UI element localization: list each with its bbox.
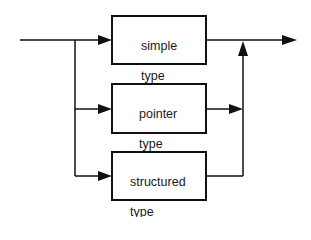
structured-type-label: structured type xyxy=(130,160,186,217)
structured-type-line2: type xyxy=(130,205,186,217)
simple-type-line1: simple xyxy=(141,39,177,54)
simple-type-label: simple type xyxy=(141,24,177,99)
structured-type-line1: structured xyxy=(130,175,186,190)
arrow-to-structured-type xyxy=(75,171,112,181)
pointer-type-line2: type xyxy=(139,137,177,152)
output-arrow xyxy=(282,35,297,45)
pointer-type-line1: pointer xyxy=(139,107,177,122)
arrow-to-simple-type xyxy=(75,35,112,45)
merge-arrow-up xyxy=(238,41,248,56)
pointer-type-label: pointer type xyxy=(139,92,177,167)
pointer-output-line xyxy=(206,104,243,114)
simple-type-line2: type xyxy=(141,69,177,84)
arrow-to-pointer-type xyxy=(75,104,112,114)
